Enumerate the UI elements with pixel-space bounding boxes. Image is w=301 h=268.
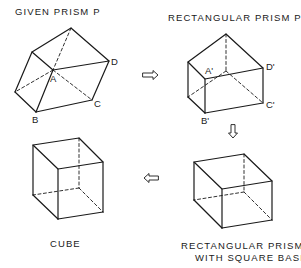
vertex-label-c-prime: C' [266, 100, 275, 110]
arrow-right-icon [143, 71, 158, 80]
cube [33, 138, 103, 219]
vertex-label-b-prime: B' [201, 116, 209, 126]
rectangular-prism-p-prime [188, 34, 263, 113]
square-base-prism-p-double-prime [194, 154, 272, 228]
vertex-label-d-prime: D' [266, 62, 275, 72]
vertex-label-a: A [50, 74, 56, 84]
arrow-left-icon [144, 174, 158, 183]
vertex-label-b: B [32, 115, 38, 125]
prism-transformation-diagram [0, 0, 301, 268]
vertex-label-d: D [111, 57, 118, 67]
arrow-down-icon [229, 125, 238, 138]
vertex-label-a-prime: A' [205, 66, 213, 76]
vertex-label-c: C [94, 99, 101, 109]
